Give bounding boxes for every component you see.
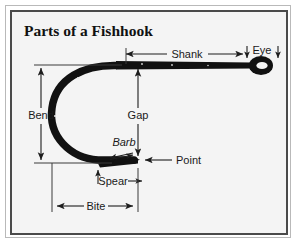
fishhook-diagram: Parts of a Fishhook: [12, 12, 286, 233]
figure-inner-frame: Parts of a Fishhook: [10, 10, 288, 235]
hook-shank: [116, 61, 252, 70]
barb-label: Barb: [112, 136, 135, 148]
point-label: Point: [176, 154, 201, 166]
annotation-bend: Bend: [28, 65, 122, 163]
hook-highlight: [77, 77, 79, 79]
gap-label: Gap: [128, 109, 149, 121]
shank-label: Shank: [171, 48, 203, 60]
hook-highlight: [171, 64, 173, 66]
diagram-canvas: Parts of a Fishhook: [12, 12, 286, 233]
figure-panel: Parts of a Fishhook: [5, 5, 291, 238]
figure-title: Parts of a Fishhook: [24, 22, 153, 39]
hook-highlight: [54, 115, 56, 117]
hook-highlight: [207, 65, 209, 67]
annotation-bite: Bite: [52, 163, 138, 212]
hook-eye-hole: [256, 62, 267, 69]
hook-highlight: [141, 63, 143, 65]
annotation-barb: Barb: [110, 136, 136, 160]
fishhook-illustration: [52, 56, 273, 168]
annotation-point: Point: [145, 154, 201, 166]
spear-label: Spear: [98, 175, 128, 187]
bend-label: Bend: [28, 109, 54, 121]
annotation-eye: Eye: [247, 44, 278, 58]
eye-label: Eye: [253, 44, 272, 56]
annotation-spear: Spear: [98, 170, 142, 187]
bite-label: Bite: [87, 200, 106, 212]
